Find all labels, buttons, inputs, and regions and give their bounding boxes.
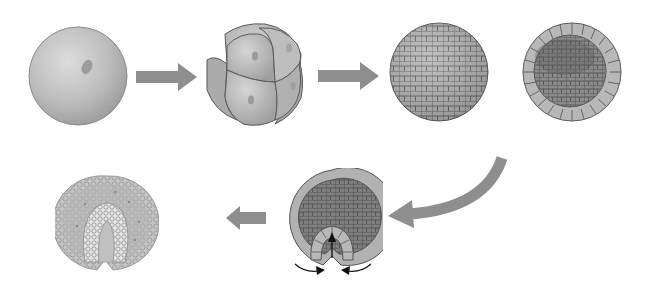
stage-late-gastrula: Late gastrula (germ layers) <box>55 174 159 274</box>
arrow-left-icon <box>226 206 266 230</box>
blastula-section-icon <box>521 21 623 123</box>
stage-gastrula: Gastrula (invagination) <box>281 168 383 276</box>
stage-eight-cell: 8-cell stage (cleavage) <box>203 20 307 128</box>
stage-blastula-section: Blastula (cross-section) <box>521 21 623 123</box>
arrow-curved-icon <box>386 152 511 230</box>
stage-zygote: Zygote (fertilized egg) <box>28 26 129 127</box>
eight-cell-embryo-icon <box>203 20 307 128</box>
stage-morula: Morula / blastula (exterior) <box>388 21 490 123</box>
zygote-sphere-icon <box>28 26 129 127</box>
arrow-right-icon <box>318 62 380 90</box>
arrow-right-icon <box>136 63 198 91</box>
inward-movement-arrows-icon <box>293 260 373 276</box>
late-gastrula-germ-layers-icon <box>55 174 159 274</box>
morula-cell-cluster-icon <box>388 21 490 123</box>
